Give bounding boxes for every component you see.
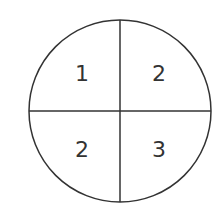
quadrant-circle-diagram: 1 2 2 3 [0,0,222,220]
quadrant-top-right-label: 2 [152,61,166,86]
quadrant-top-left-label: 1 [75,61,89,86]
quadrant-bottom-left-label: 2 [75,137,89,162]
quadrant-bottom-right-label: 3 [152,137,166,162]
